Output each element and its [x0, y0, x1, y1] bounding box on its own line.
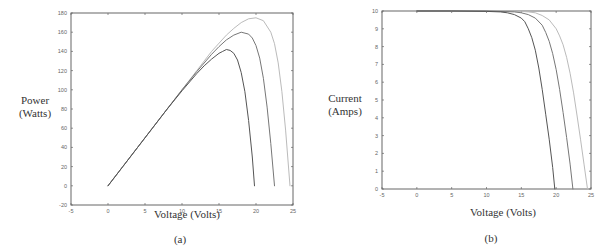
y-tick-label: 40 [61, 144, 67, 150]
plot-area-frame [382, 11, 591, 189]
x-tick-label: 25 [588, 192, 594, 198]
y-tick-label: 160 [58, 29, 67, 35]
x-tick-label: 20 [553, 192, 559, 198]
chart-b-ylabel: Current (Amps) [318, 92, 372, 118]
data-series-line [108, 18, 290, 186]
chart-a-ylabel-line1: Power [2, 94, 68, 107]
y-tick-label: 180 [58, 10, 67, 16]
y-tick-label: 4 [375, 115, 378, 121]
x-tick-label: -5 [69, 208, 74, 214]
y-tick-label: 2 [375, 150, 378, 156]
chart-a-power-voltage: -50510152025-20020406080100120140160180 [58, 10, 296, 214]
y-tick-label: 60 [61, 125, 67, 131]
y-tick-label: 6 [375, 79, 378, 85]
x-tick-label: 15 [518, 192, 524, 198]
x-tick-label: -5 [380, 192, 385, 198]
data-series-line [108, 32, 275, 186]
x-tick-label: 10 [483, 192, 489, 198]
data-series-line [417, 11, 573, 189]
chart-a-caption: (a) [160, 233, 200, 245]
y-tick-label: 10 [372, 8, 378, 14]
figure: -50510152025-20020406080100120140160180 … [0, 0, 603, 250]
chart-b-xlabel: Voltage (Volts) [448, 206, 558, 218]
x-tick-label: 0 [106, 208, 109, 214]
data-series-line [417, 11, 588, 189]
y-tick-label: 120 [58, 68, 67, 74]
chart-b-ylabel-line2: (Amps) [318, 105, 372, 118]
chart-a-ylabel-line2: (Watts) [2, 107, 68, 120]
y-tick-label: 140 [58, 48, 67, 54]
y-tick-label: 0 [64, 183, 67, 189]
data-series-line [417, 11, 555, 189]
y-tick-label: 3 [375, 133, 378, 139]
x-tick-label: 25 [290, 208, 296, 214]
chart-b-caption: (b) [471, 232, 511, 244]
y-tick-label: 5 [375, 97, 378, 103]
y-tick-label: 8 [375, 44, 378, 50]
y-tick-label: 20 [61, 164, 67, 170]
data-series-line [108, 50, 255, 186]
y-tick-label: 9 [375, 26, 378, 32]
y-tick-label: 0 [375, 186, 378, 192]
y-tick-label: 1 [375, 168, 378, 174]
y-tick-label: 100 [58, 87, 67, 93]
x-tick-label: 0 [415, 192, 418, 198]
plot-area-frame [71, 13, 293, 205]
x-tick-label: 5 [450, 192, 453, 198]
y-tick-label: -20 [59, 202, 67, 208]
chart-a-ylabel: Power (Watts) [2, 94, 68, 120]
y-tick-label: 7 [375, 61, 378, 67]
x-tick-label: 20 [253, 208, 259, 214]
chart-a-xlabel: Voltage (Volts) [132, 208, 242, 220]
chart-b-ylabel-line1: Current [318, 92, 372, 105]
chart-b-current-voltage: -50510152025012345678910 [372, 8, 594, 198]
